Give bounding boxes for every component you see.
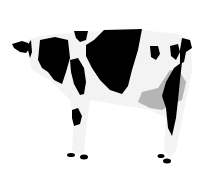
cow-hoof-1 bbox=[67, 153, 75, 157]
cow-hoof-2 bbox=[80, 155, 88, 160]
cow-hoof-4 bbox=[163, 159, 171, 164]
cow-illustration bbox=[0, 0, 212, 175]
cow-hoof-3 bbox=[158, 154, 165, 158]
cow-image: Holstein cow bbox=[0, 0, 212, 175]
